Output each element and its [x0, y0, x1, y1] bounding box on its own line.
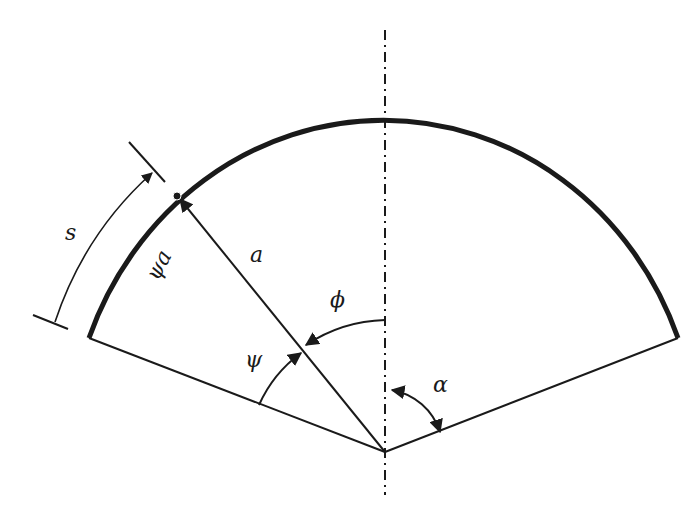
label-s: s [65, 220, 76, 245]
phi-angle-arc [306, 320, 385, 345]
label-psi-a: ψa [140, 246, 176, 285]
label-a: a [250, 242, 263, 267]
point-on-arc [173, 192, 181, 200]
right-edge-radius [385, 338, 678, 452]
radius-a [180, 199, 385, 452]
s-tick-bottom [33, 315, 68, 329]
label-alpha: α [433, 372, 448, 397]
diagram-canvas: s ψa a ϕ ψ α [0, 0, 700, 524]
psi-angle-arc [259, 353, 301, 405]
left-edge-radius [89, 338, 385, 452]
s-tick-top [129, 142, 165, 182]
shell-arc [89, 120, 678, 338]
label-psi: ψ [245, 347, 263, 372]
label-phi: ϕ [330, 287, 345, 312]
